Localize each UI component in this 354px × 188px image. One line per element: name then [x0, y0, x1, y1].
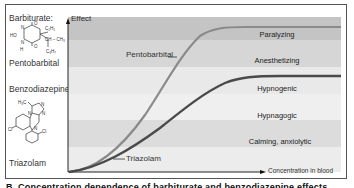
band-label-paralyzing: Paralyzing: [259, 30, 294, 39]
band-hypnagogic: [68, 94, 341, 120]
effect-chart: [0, 0, 354, 188]
band-paralyzing: [68, 17, 341, 40]
y-axis-label: Effect: [71, 14, 91, 23]
figure-caption: B. Concentration dependence of barbitura…: [6, 182, 327, 188]
band-label-anesthetizing: Anesthetizing: [254, 56, 299, 65]
pentobarbital-curve-label: Pentobarbital: [126, 50, 173, 59]
band-label-calming: Calming, anxiolytic: [249, 137, 312, 146]
triazolam-curve-label: Triazolam: [126, 154, 161, 163]
band-hypnogenic: [68, 67, 341, 94]
x-axis-label: Concentration in blood: [268, 167, 333, 174]
band-label-hypnagogic: Hypnagogic: [257, 111, 297, 120]
band-anesthetizing: [68, 40, 341, 67]
band-label-hypnogenic: Hypnogenic: [257, 84, 297, 93]
